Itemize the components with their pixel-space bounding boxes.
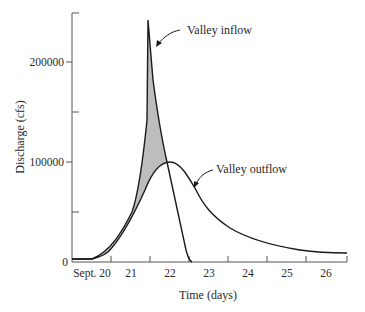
hydrograph-chart: Valley inflow Valley outflow 200000 1000… [0,0,365,312]
storage-shaded-area [92,20,167,259]
x-ticks [111,256,347,262]
x-axis-title: Time (days) [179,288,237,302]
outflow-annotation-arrow [194,170,213,188]
y-tick-label-100000: 100000 [30,156,65,168]
y-tick-label-200000: 200000 [30,56,65,68]
valley-inflow-label: Valley inflow [187,23,252,37]
x-tick-label-24: 24 [242,267,254,279]
y-tick-label-0: 0 [62,256,68,268]
x-tick-label-26: 26 [320,267,332,279]
y-axis-title: Discharge (cfs) [13,100,27,173]
inflow-annotation-arrow [156,30,180,47]
x-tick-label-sept20: Sept. 20 [73,267,111,280]
x-tick-label-21: 21 [125,267,137,279]
valley-inflow-line [72,20,192,262]
x-tick-label-22: 22 [164,267,176,279]
x-tick-label-23: 23 [203,267,215,279]
x-tick-label-25: 25 [281,267,293,279]
valley-outflow-label: Valley outflow [216,162,287,176]
